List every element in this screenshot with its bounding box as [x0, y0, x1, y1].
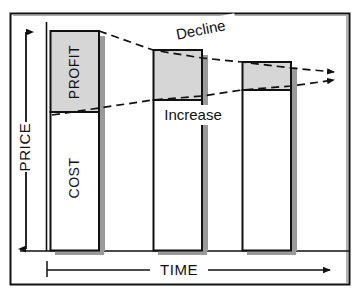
price-time-diagram: PRICE PROFIT COST	[0, 0, 359, 295]
bar-2-profit-segment	[154, 50, 203, 100]
bar-3-profit-segment	[243, 62, 292, 90]
bar-1: PROFIT COST	[51, 31, 106, 255]
bar-2	[154, 50, 209, 255]
bar-3	[243, 62, 298, 255]
increase-label: Increase	[164, 106, 222, 123]
increase-label-group: Increase	[155, 105, 231, 125]
x-axis-label: TIME	[160, 261, 198, 278]
bar-1-profit-label: PROFIT	[66, 45, 82, 99]
bar-3-cost-segment	[243, 90, 292, 251]
figure-canvas: PRICE PROFIT COST	[0, 0, 359, 295]
bar-1-cost-label: COST	[66, 158, 82, 199]
y-axis-label: PRICE	[16, 123, 33, 172]
